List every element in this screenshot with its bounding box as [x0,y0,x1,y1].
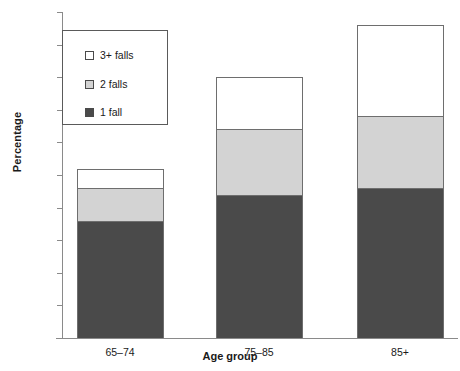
stacked-bar-chart: Percentage 05101520253035404550 65–7475–… [0,0,460,371]
legend-item-2-falls: 2 falls [85,78,127,90]
bar-segment-1-fall [77,221,164,338]
bar-2 [216,77,303,338]
legend: 3+ falls 2 falls 1 fall [62,30,168,125]
legend-swatch-2-falls [85,80,94,89]
y-tick [57,273,62,274]
x-axis-line [56,338,458,339]
bar-segment-3-falls [77,169,164,189]
bar-segment-3-falls [357,25,444,116]
y-tick [57,142,62,143]
bar-segment-3-falls [216,77,303,129]
legend-item-3plus-falls: 3+ falls [85,49,134,61]
bar-segment-1-fall [216,195,303,338]
x-axis-title: Age group [0,350,460,362]
legend-item-1-fall: 1 fall [85,106,122,118]
bar-segment-2-falls [77,188,164,221]
legend-label-1-fall: 1 fall [100,106,122,118]
y-tick [57,338,62,339]
bar-1 [77,169,164,339]
legend-swatch-1-fall [85,108,94,117]
bar-segment-2-falls [357,116,444,188]
bar-segment-1-fall [357,188,444,338]
legend-label-3plus-falls: 3+ falls [100,49,134,61]
y-tick [57,240,62,241]
y-tick [57,208,62,209]
legend-swatch-3plus-falls [85,51,94,60]
y-tick [57,305,62,306]
bar-3 [357,25,444,338]
y-tick [57,175,62,176]
bar-segment-2-falls [216,129,303,194]
y-tick [57,12,62,13]
legend-label-2-falls: 2 falls [100,78,127,90]
y-axis-title: Percentage [11,87,23,197]
